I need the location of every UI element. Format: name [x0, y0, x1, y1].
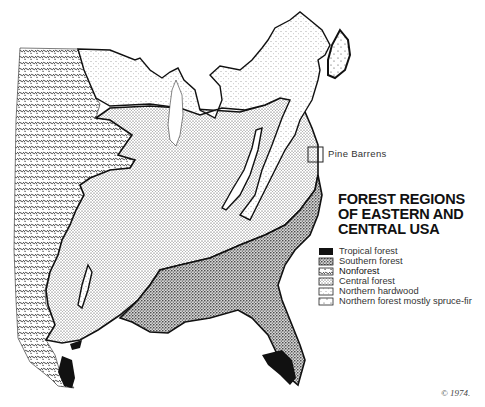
- legend-label: Central forest: [339, 276, 395, 286]
- swatch-southern: [319, 258, 333, 265]
- legend-label: Southern forest: [339, 256, 403, 266]
- legend: Tropical forest Southern forest Nonfores…: [339, 246, 472, 306]
- legend-swatches: [319, 248, 333, 305]
- title-line-1: FOREST REGIONS: [338, 192, 485, 207]
- swatch-central: [319, 278, 333, 285]
- title-line-3: CENTRAL USA: [338, 222, 485, 237]
- swatch-nonforest: [319, 268, 333, 275]
- title-line-2: OF EASTERN AND: [338, 207, 485, 222]
- legend-item-northern-hardwood: Northern hardwood: [339, 286, 472, 296]
- pine-barrens-label: Pine Barrens: [328, 148, 387, 159]
- legend-label: Northern forest mostly spruce-fir: [339, 296, 472, 306]
- swatch-tropical: [319, 248, 333, 255]
- legend-item-southern: Southern forest: [339, 256, 472, 266]
- legend-item-tropical: Tropical forest: [339, 246, 472, 256]
- legend-label: Tropical forest: [339, 246, 398, 256]
- copyright-note: © 1974.: [441, 388, 470, 398]
- swatch-northern: [319, 288, 333, 295]
- legend-label: Northern hardwood: [339, 286, 419, 296]
- legend-item-central: Central forest: [339, 276, 472, 286]
- region-spruce-fir: [328, 30, 350, 78]
- swatch-spruce: [319, 298, 333, 305]
- map-title: FOREST REGIONS OF EASTERN AND CENTRAL US…: [338, 192, 485, 237]
- legend-label: Nonforest: [339, 266, 379, 276]
- legend-item-spruce-fir: Northern forest mostly spruce-fir: [339, 296, 472, 306]
- legend-item-nonforest: Nonforest: [339, 266, 472, 276]
